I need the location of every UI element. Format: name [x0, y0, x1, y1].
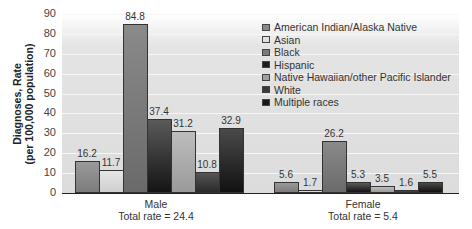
male-total-rate: Total rate = 24.4	[96, 210, 216, 222]
legend-label: Hispanic	[274, 59, 314, 71]
legend-swatch-icon	[262, 74, 270, 81]
gridline	[62, 113, 459, 114]
legend-label: Native Hawaiian/other Pacific Islander	[274, 71, 451, 83]
bar-value-label: 11.7	[96, 157, 126, 168]
female-total-rate: Total rate = 5.4	[303, 210, 423, 222]
group-label-male: Male Total rate = 24.4	[96, 198, 216, 222]
y-axis-label-line2: (per 100,000 population)	[23, 29, 35, 179]
bar	[346, 182, 371, 193]
legend-label: American Indian/Alaska Native	[274, 21, 417, 33]
y-axis-label-line1: Diagnoses, Rate	[11, 29, 23, 179]
bar	[298, 190, 323, 193]
bar-value-label: 26.2	[319, 128, 349, 139]
legend-swatch-icon	[262, 24, 270, 31]
bar-value-label: 32.9	[216, 115, 246, 126]
group-label-female: Female Total rate = 5.4	[303, 198, 423, 222]
bar	[394, 190, 419, 193]
bar	[99, 170, 124, 193]
legend-swatch-icon	[262, 99, 270, 106]
bar-value-label: 84.8	[120, 11, 150, 22]
female-label: Female	[303, 198, 423, 210]
legend-item: Native Hawaiian/other Pacific Islander	[262, 71, 451, 84]
y-axis-label: Diagnoses, Rate (per 100,000 population)	[11, 29, 35, 179]
gridline	[62, 133, 459, 134]
legend-swatch-icon	[262, 49, 270, 56]
bar-value-label: 5.5	[415, 169, 445, 180]
legend-item: Black	[262, 46, 451, 59]
legend-label: Black	[274, 46, 300, 58]
legend-item: Multiple races	[262, 96, 451, 109]
legend-item: American Indian/Alaska Native	[262, 21, 451, 34]
gridline	[62, 153, 459, 154]
bar	[219, 128, 244, 193]
bar-value-label: 31.2	[168, 118, 198, 129]
legend-swatch-icon	[262, 61, 270, 68]
legend: American Indian/Alaska NativeAsianBlackH…	[262, 21, 451, 109]
legend-swatch-icon	[262, 36, 270, 43]
bar	[195, 172, 220, 193]
legend-label: Multiple races	[274, 96, 339, 108]
bar	[322, 141, 347, 193]
x-axis	[62, 193, 459, 194]
male-label: Male	[96, 198, 216, 210]
legend-item: Hispanic	[262, 59, 451, 72]
legend-swatch-icon	[262, 86, 270, 93]
legend-label: White	[274, 84, 301, 96]
bar	[418, 182, 443, 193]
legend-label: Asian	[274, 34, 300, 46]
y-tick-label: 0	[28, 186, 56, 198]
y-tick-label: 90	[28, 7, 56, 19]
bar-value-label: 10.8	[192, 159, 222, 170]
legend-item: White	[262, 84, 451, 97]
bar-value-label: 1.7	[295, 177, 325, 188]
bar-value-label: 37.4	[144, 106, 174, 117]
bar	[147, 119, 172, 193]
legend-item: Asian	[262, 34, 451, 47]
